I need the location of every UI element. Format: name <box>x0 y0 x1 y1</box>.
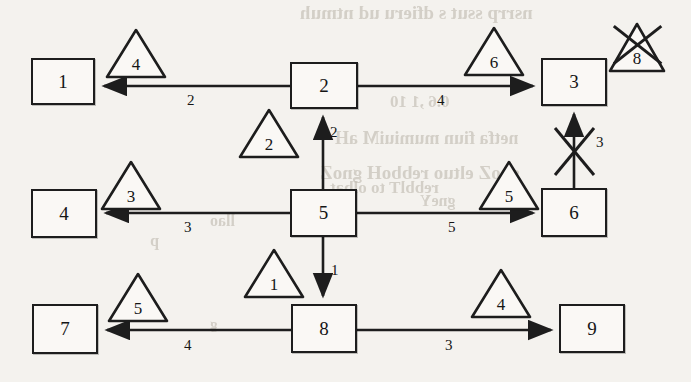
node-box-3[interactable]: 3 <box>541 58 607 106</box>
node-label: 6 <box>569 202 579 224</box>
node-box-7[interactable]: 7 <box>32 304 98 354</box>
edge-label-2-to-3: 4 <box>437 92 445 109</box>
edge-label-2-to-1: 2 <box>187 92 195 109</box>
node-box-2[interactable]: 2 <box>290 62 358 109</box>
node-label: 9 <box>587 318 597 340</box>
node-label: 1 <box>58 71 68 93</box>
node-label: 3 <box>569 71 579 93</box>
node-label: 8 <box>319 318 329 340</box>
edge-label-5-to-8: 1 <box>331 262 339 279</box>
edge-label-8-to-9: 3 <box>445 337 453 354</box>
edge-label-5-to-6: 5 <box>448 219 456 236</box>
node-label: 5 <box>319 202 329 224</box>
node-box-1[interactable]: 1 <box>31 58 95 105</box>
node-box-8[interactable]: 8 <box>291 304 357 353</box>
edge-label-5-to-4: 3 <box>184 219 192 236</box>
edge-label-6-to-3: 3 <box>596 134 604 151</box>
node-label: 2 <box>319 75 329 97</box>
node-label: 7 <box>60 318 70 340</box>
node-box-4[interactable]: 4 <box>31 189 97 238</box>
node-box-6[interactable]: 6 <box>541 188 607 237</box>
edge-label-8-to-7: 4 <box>184 337 192 354</box>
edge-label-5-to-2: 2 <box>330 124 338 141</box>
node-label: 4 <box>59 203 69 225</box>
node-box-9[interactable]: 9 <box>559 304 625 353</box>
node-box-5[interactable]: 5 <box>290 189 357 237</box>
